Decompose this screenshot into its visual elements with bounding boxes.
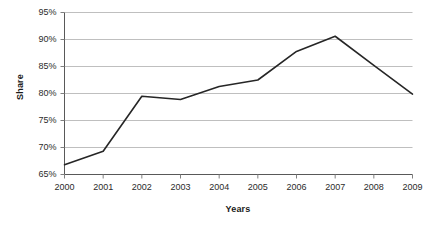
x-tick-label: 2000 (46, 182, 84, 192)
x-tick-label: 2009 (394, 182, 432, 192)
y-tick-label: 90% (27, 34, 57, 44)
x-tick-label: 2005 (239, 182, 277, 192)
data-series-group (65, 36, 413, 165)
y-tick-label: 85% (27, 61, 57, 71)
x-tick-label: 2002 (123, 182, 161, 192)
x-tick-label: 2008 (355, 182, 393, 192)
y-tick-label: 95% (27, 7, 57, 17)
x-tick-label: 2007 (316, 182, 354, 192)
x-tick-label: 2003 (162, 182, 200, 192)
y-tick-label: 80% (27, 88, 57, 98)
x-axis-title: Years (64, 204, 412, 214)
x-tick-label: 2001 (84, 182, 122, 192)
gridlines-group (65, 13, 413, 148)
x-tick-label: 2004 (200, 182, 238, 192)
line-chart: 65%70%75%80%85%90%95% 200020012002200320… (0, 0, 435, 228)
y-tick-marks-group (61, 13, 65, 175)
chart-plot-area (0, 0, 435, 228)
y-tick-label: 65% (27, 169, 57, 179)
y-tick-label: 75% (27, 115, 57, 125)
y-axis-title: Share (15, 61, 25, 113)
data-line-share (65, 36, 413, 165)
y-tick-label: 70% (27, 142, 57, 152)
x-tick-marks-group (65, 175, 413, 179)
x-tick-label: 2006 (278, 182, 316, 192)
